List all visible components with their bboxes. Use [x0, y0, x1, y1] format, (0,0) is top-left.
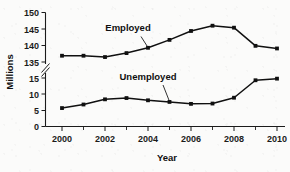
x-tick-label-2006: 2006 [181, 134, 201, 144]
data-point [168, 38, 172, 42]
y-tick-label-15: 15 [29, 74, 39, 84]
data-point [103, 55, 107, 59]
x-tick-label-2010: 2010 [267, 134, 287, 144]
employed-leader-line [141, 37, 148, 48]
data-point [189, 29, 193, 33]
series-unemployed: Unemployed [60, 71, 279, 110]
y-axis-title: Millions [4, 54, 15, 89]
data-point [60, 106, 64, 110]
series-employed: Employed [60, 22, 279, 59]
series-label-unemployed: Unemployed [119, 71, 176, 82]
chart-figure: 150 145 140 135 15 10 5 0 Millions [0, 0, 290, 172]
data-point [146, 46, 150, 50]
y-tick-label-5: 5 [34, 106, 39, 116]
series-label-employed: Employed [105, 22, 151, 33]
unemployed-leader-line [163, 85, 170, 102]
series-employed-points [60, 24, 279, 59]
x-axis: 2000 2002 2004 2006 2008 2010 Year [46, 127, 288, 164]
data-point [211, 24, 215, 28]
data-point [275, 47, 279, 51]
data-point [146, 98, 150, 102]
x-tick-label-2000: 2000 [52, 134, 72, 144]
data-point [189, 102, 193, 106]
y-tick-label-145: 145 [24, 25, 39, 35]
data-point [232, 96, 236, 100]
data-point [82, 103, 86, 107]
x-tick-label-2002: 2002 [95, 134, 115, 144]
data-point [275, 77, 279, 81]
data-point [60, 54, 64, 58]
data-point [254, 78, 258, 82]
x-tick-label-2008: 2008 [224, 134, 244, 144]
data-point [254, 44, 258, 48]
data-point [103, 97, 107, 101]
data-point [82, 54, 86, 58]
y-tick-label-150: 150 [24, 8, 39, 18]
y-tick-label-10: 10 [29, 90, 39, 100]
y-tick-label-0: 0 [34, 122, 39, 132]
line-chart-plot: 150 145 140 135 15 10 5 0 Millions [0, 0, 290, 172]
data-point [232, 26, 236, 30]
data-point [125, 51, 129, 55]
data-point [211, 102, 215, 106]
data-point [125, 96, 129, 100]
y-tick-label-140: 140 [24, 41, 39, 51]
y-axis: 150 145 140 135 15 10 5 0 Millions [4, 8, 50, 132]
x-tick-label-2004: 2004 [138, 134, 158, 144]
x-axis-title: Year [157, 152, 177, 163]
y-tick-label-135: 135 [24, 58, 39, 68]
